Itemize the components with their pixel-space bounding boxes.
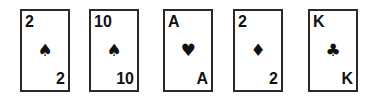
card-rank-top: K xyxy=(313,14,325,30)
card-rank-bottom: 2 xyxy=(56,71,65,87)
playing-card-2-spades[interactable]: 2 ♠ 2 xyxy=(20,9,70,92)
card-rank-top: 2 xyxy=(25,14,34,30)
heart-icon: ♥ xyxy=(165,41,211,59)
club-icon: ♣ xyxy=(310,41,356,59)
card-rank-bottom: K xyxy=(341,71,353,87)
playing-card-10-spades[interactable]: 10 ♠ 10 xyxy=(89,9,139,92)
card-rank-top: A xyxy=(168,14,180,30)
playing-card-a-hearts[interactable]: A ♥ A xyxy=(163,9,213,92)
playing-card-k-clubs[interactable]: K ♣ K xyxy=(308,9,358,92)
card-rank-top: 10 xyxy=(94,14,112,30)
card-rank-bottom: A xyxy=(196,71,208,87)
card-rank-top: 2 xyxy=(238,14,247,30)
spade-icon: ♠ xyxy=(22,41,68,59)
card-rank-bottom: 2 xyxy=(269,71,278,87)
playing-card-2-diamonds[interactable]: 2 ♦ 2 xyxy=(233,9,283,92)
card-rank-bottom: 10 xyxy=(116,71,134,87)
spade-icon: ♠ xyxy=(91,41,137,59)
diamond-icon: ♦ xyxy=(235,41,281,59)
